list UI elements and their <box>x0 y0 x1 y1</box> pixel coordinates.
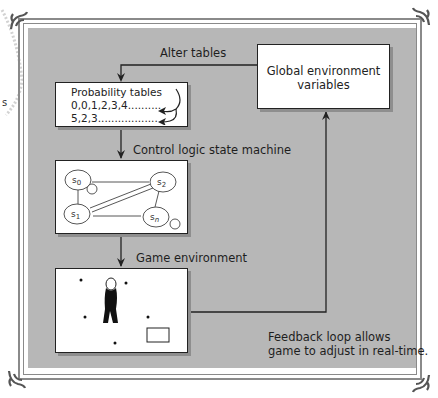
feedback-loop-caption: Feedback loop allows game to adjust in r… <box>268 330 428 358</box>
probability-tables-box: Probability tables 0,0,1,2,3,4..........… <box>55 82 188 127</box>
global-box-line1: Global environment <box>258 64 389 78</box>
global-box-line2: variables <box>258 78 389 92</box>
global-environment-box: Global environment variables <box>257 44 390 109</box>
probability-row-2: 5,2,3.................. <box>71 112 162 125</box>
alter-tables-label: Alter tables <box>160 46 226 60</box>
probability-row-1: 0,0,1,2,3,4.......... <box>71 99 162 112</box>
control-logic-label: Control logic state machine <box>133 143 291 157</box>
feedback-caption-line2: game to adjust in real-time. <box>268 344 428 358</box>
game-environment-box <box>55 268 188 353</box>
game-scene <box>56 269 186 351</box>
feedback-caption-line1: Feedback loop allows <box>268 330 428 344</box>
character-figure-icon <box>103 278 118 323</box>
state-machine-box: s0 s1 s2 sn <box>55 160 188 234</box>
curved-arrows-icon <box>156 87 188 125</box>
probability-title: Probability tables <box>71 86 162 99</box>
game-environment-label: Game environment <box>136 251 247 265</box>
state-machine-graph: s0 s1 s2 sn <box>56 161 186 233</box>
